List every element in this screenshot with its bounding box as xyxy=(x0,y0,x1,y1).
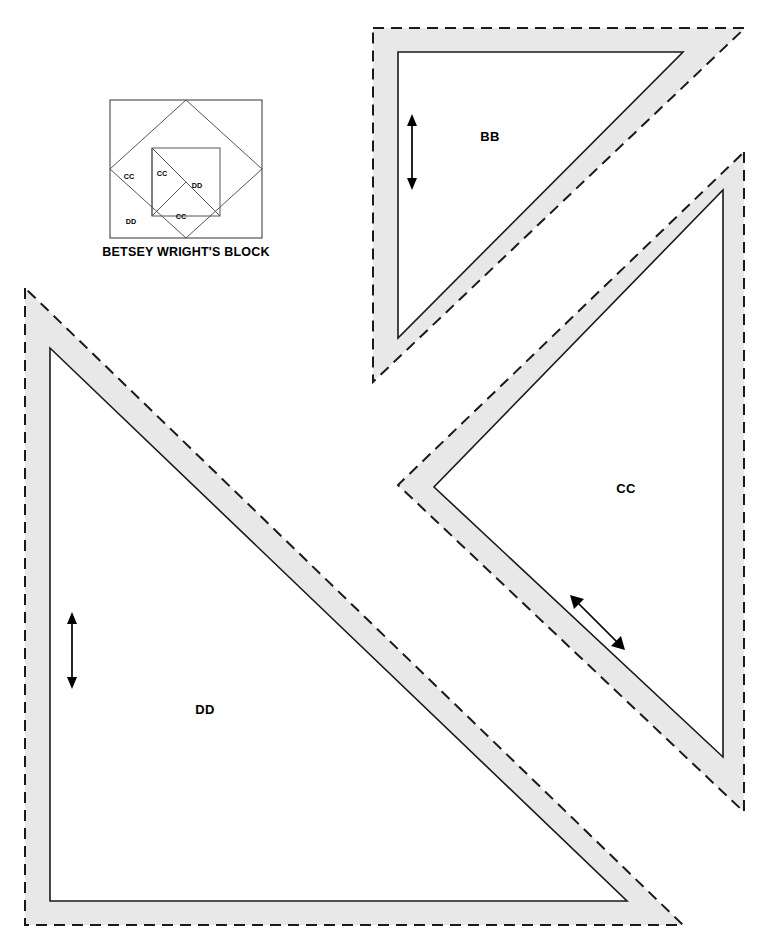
pattern-canvas: CC CC DD DD CC BETSEY WRIGHT'S BLOCK BB xyxy=(0,0,774,948)
bb-piece-label: BB xyxy=(480,129,500,144)
block-patch-label-dd-1: DD xyxy=(192,181,203,190)
dd-sewing-line xyxy=(50,348,627,901)
block-patch-label-cc-1: CC xyxy=(124,172,135,181)
block-title: BETSEY WRIGHT'S BLOCK xyxy=(102,245,269,259)
dd-piece-label: DD xyxy=(195,702,215,717)
template-piece-dd[interactable]: DD xyxy=(25,288,683,925)
block-patch-label-dd-2: DD xyxy=(126,217,137,226)
bb-grain-arrow xyxy=(407,114,417,190)
cc-piece-label: CC xyxy=(616,481,636,496)
block-patch-label-cc-2: CC xyxy=(157,169,168,178)
dd-grain-arrow xyxy=(67,612,77,689)
block-patch-label-cc-3: CC xyxy=(176,212,187,221)
dd-cutting-line xyxy=(25,288,683,925)
block-diagram: CC CC DD DD CC BETSEY WRIGHT'S BLOCK xyxy=(102,100,269,259)
pattern-sheet: CC CC DD DD CC BETSEY WRIGHT'S BLOCK BB xyxy=(0,0,774,948)
bb-sewing-line xyxy=(398,52,683,338)
